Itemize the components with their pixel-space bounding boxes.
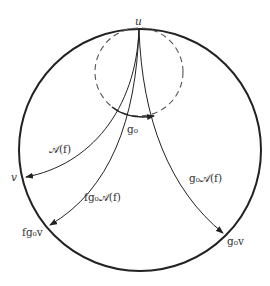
point-label-u: u [135, 15, 142, 27]
arrow-label-A-f: 𝒜(f) [49, 143, 71, 155]
arrow-label-fg0-A-f: fg₀𝒜(f) [84, 191, 121, 203]
point-label-fg0v: fg₀v [22, 226, 43, 238]
dashed-horocycle [95, 28, 183, 116]
arrow-label-g0-A-f: g₀𝒜(f) [189, 172, 222, 184]
arrow-label-g0: g₀ [127, 123, 138, 135]
point-label-g0v: g₀v [227, 235, 244, 247]
diagram-canvas: u v fg₀v g₀v 𝒜(f) fg₀𝒜(f) g₀𝒜(f) g₀ [0, 0, 270, 286]
geodesic-A-f [26, 29, 139, 177]
point-label-v: v [11, 171, 17, 183]
